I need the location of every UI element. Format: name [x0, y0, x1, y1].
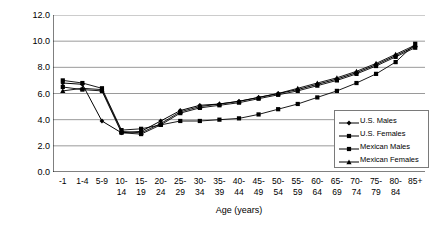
data-point-marker	[393, 52, 398, 57]
data-point-marker	[61, 78, 65, 82]
data-point-marker	[354, 69, 359, 74]
data-point-marker	[198, 119, 202, 123]
legend-item-label: Mexican Males	[360, 141, 410, 153]
data-point-marker	[335, 89, 339, 93]
y-tick-label: 2.0	[12, 141, 50, 151]
legend-marker-icon	[338, 115, 360, 127]
legend-item-label: U.S. Males	[360, 115, 397, 127]
chart-figure: Death Rate (per 100,000) 0.02.04.06.08.0…	[0, 0, 433, 229]
legend-marker-icon	[338, 128, 360, 140]
legend-item-label: Mexican Females	[360, 154, 419, 166]
data-point-marker	[178, 119, 182, 123]
x-tick-label-line1: 85+	[400, 176, 430, 187]
legend-item[interactable]: Mexican Males	[338, 140, 425, 153]
y-tick-label: 8.0	[12, 62, 50, 72]
data-point-marker	[237, 116, 241, 120]
data-point-marker	[394, 60, 398, 64]
legend-marker-icon	[338, 141, 360, 153]
data-point-marker	[374, 72, 378, 76]
x-tick-label-line2: 84	[381, 187, 411, 198]
y-tick-label: 4.0	[12, 115, 50, 125]
y-tick-label: 12.0	[12, 10, 50, 20]
data-point-marker	[296, 102, 300, 106]
data-point-marker	[347, 133, 351, 137]
data-point-marker	[347, 146, 351, 150]
y-tick-label: 6.0	[12, 89, 50, 99]
chart-legend: U.S. MalesU.S. FemalesMexican MalesMexic…	[334, 110, 429, 168]
data-point-marker	[315, 95, 319, 99]
x-axis-ticks: -11-45-910-1415-1920-2425-2930-3435-3940…	[53, 176, 425, 202]
legend-marker-icon	[338, 154, 360, 166]
data-point-marker	[276, 107, 280, 111]
data-point-marker	[347, 120, 352, 125]
legend-item-label: U.S. Females	[360, 128, 405, 140]
legend-item[interactable]: U.S. Males	[338, 114, 425, 127]
legend-item[interactable]: Mexican Females	[338, 153, 425, 166]
data-point-marker	[354, 81, 358, 85]
data-point-marker	[217, 118, 221, 122]
x-axis-title: Age (years)	[53, 205, 425, 215]
data-point-marker	[256, 112, 260, 116]
y-tick-label: 10.0	[12, 36, 50, 46]
x-tick-label: 85+	[400, 176, 430, 187]
y-tick-label: 0.0	[12, 167, 50, 177]
data-point-marker	[373, 61, 378, 66]
legend-item[interactable]: U.S. Females	[338, 127, 425, 140]
y-axis-ticks: 0.02.04.06.08.010.012.0	[10, 0, 50, 229]
data-point-marker	[80, 81, 84, 85]
